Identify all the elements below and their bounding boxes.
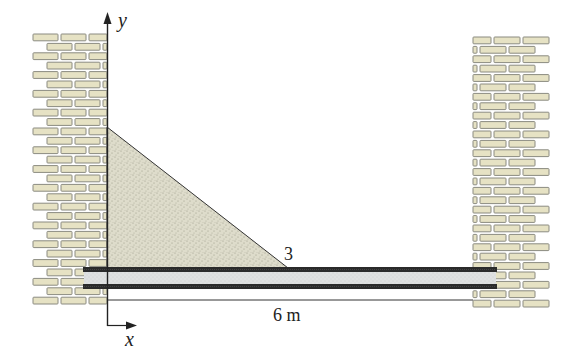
- y-axis-label: y: [118, 10, 127, 30]
- triangular-load: [107, 127, 288, 268]
- right-brick-wall: [473, 37, 549, 307]
- x-axis-label: x: [125, 329, 134, 348]
- beam-diagram: [0, 0, 583, 348]
- span-label: 6 m: [273, 306, 301, 324]
- left-brick-wall: [33, 34, 107, 304]
- beam: [83, 267, 497, 289]
- y-axis-arrow-icon: [104, 12, 112, 24]
- load-peak-label: 3: [284, 245, 293, 263]
- beam-web: [84, 271, 496, 284]
